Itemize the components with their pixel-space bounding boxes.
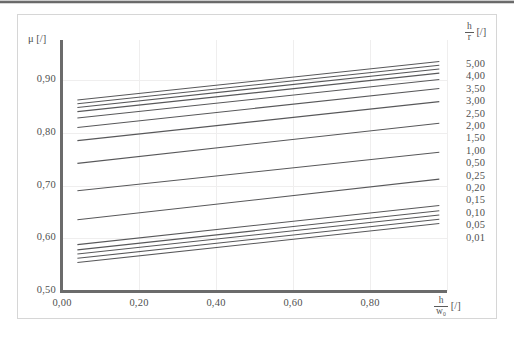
curve-line: [77, 65, 439, 104]
legend-entry: 0,25: [466, 170, 485, 181]
x-axis-title-fraction: h w₀: [434, 296, 448, 316]
x-tick-label: 0,00: [32, 297, 92, 308]
legend-entry: 0,10: [466, 207, 485, 218]
curve-line: [77, 215, 439, 254]
legend-entry: 0,05: [466, 219, 485, 230]
y-tick-label: 0,60: [16, 231, 56, 242]
legend-entry: 0,15: [466, 194, 485, 205]
y-tick-label: 0,80: [16, 126, 56, 137]
legend-entry: 0,01: [466, 232, 485, 243]
curve-line: [77, 211, 439, 250]
legend-title-unit: [/]: [476, 26, 486, 37]
legend-title-fraction: h r: [465, 22, 474, 42]
legend-entry: 1,00: [466, 145, 485, 156]
legend-entry: 1,50: [466, 132, 485, 143]
curve-lines: [0, 0, 514, 338]
x-tick-label: 0,60: [263, 297, 323, 308]
legend-title-numerator: h: [465, 22, 474, 32]
y-tick-label: 0,70: [16, 179, 56, 190]
legend-entry: 4,00: [466, 70, 485, 81]
x-axis-title: h w₀ [/]: [434, 296, 461, 316]
legend-title: h r [/]: [465, 22, 486, 42]
curve-line: [77, 123, 439, 163]
y-axis-title: μ [/]: [28, 33, 46, 44]
legend-entry: 2,00: [466, 120, 485, 131]
legend-entry: 0,20: [466, 182, 485, 193]
y-tick-label: 0,90: [16, 73, 56, 84]
x-tick-label: 0,80: [340, 297, 400, 308]
x-axis-title-numerator: h: [434, 296, 448, 306]
x-tick-label: 0,40: [186, 297, 246, 308]
legend-entry: 5,00: [466, 58, 485, 69]
legend-entry: 2,50: [466, 108, 485, 119]
legend-title-denominator: r: [465, 32, 474, 43]
curve-line: [77, 69, 439, 108]
legend-entry: 3,00: [466, 95, 485, 106]
x-axis-title-unit: [/]: [451, 300, 461, 311]
y-tick-labels: 0,900,800,700,600,50: [12, 0, 56, 338]
x-tick-label: 0,20: [109, 297, 169, 308]
curve-line: [77, 73, 439, 112]
x-axis-title-denominator: w₀: [434, 306, 448, 317]
curve-line: [77, 79, 439, 118]
legend-entry: 0,50: [466, 157, 485, 168]
curve-line: [77, 223, 439, 262]
chart-plot-area: 0,900,800,700,600,50 0,000,200,400,600,8…: [0, 0, 514, 338]
legend-entry: 3,50: [466, 83, 485, 94]
y-tick-label: 0,50: [16, 284, 56, 295]
